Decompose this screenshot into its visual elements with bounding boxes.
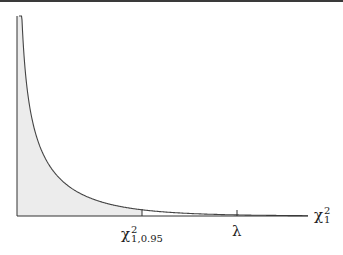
tick-label-lambda: λ [232,224,242,239]
shaded-area [17,16,142,216]
lambda-symbol: λ [232,222,242,240]
chi-symbol: χ [314,206,323,224]
chi-symbol: χ [121,225,130,243]
density-plot [0,0,343,255]
tick-label-critical: χ21,0.95 [121,225,163,244]
x-label-sub: 1 [324,215,330,225]
tick-label-sub: 1,0.95 [131,234,163,244]
x-axis-label: χ21 [314,206,330,225]
